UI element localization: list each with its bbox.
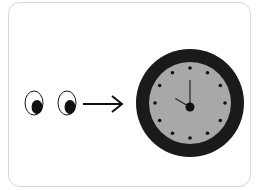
clock-hub (186, 103, 195, 112)
clock-hour-marker (153, 101, 157, 105)
clock-hour-marker (219, 84, 223, 88)
clock-hour-marker (223, 101, 227, 105)
left-eye-icon (25, 91, 43, 115)
clock-icon (136, 49, 244, 157)
clock-hour-marker (188, 136, 192, 140)
clock-hour-marker (219, 119, 223, 123)
clock-hour-marker (206, 132, 210, 136)
clock-hour-marker (188, 66, 192, 70)
clock-hour-marker (171, 71, 175, 75)
clock-hour-marker (206, 71, 210, 75)
clock-hour-marker (158, 119, 162, 123)
right-eye-icon (58, 91, 76, 115)
clock-hour-marker (158, 84, 162, 88)
illustration (0, 0, 256, 190)
arrow-right-icon (83, 96, 122, 112)
clock-hour-marker (171, 132, 175, 136)
